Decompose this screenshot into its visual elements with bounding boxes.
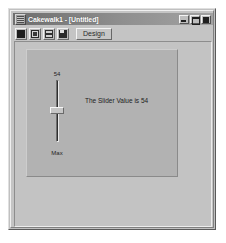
slider-track-area[interactable] xyxy=(52,80,62,142)
close-button[interactable] xyxy=(201,15,211,24)
save-button[interactable] xyxy=(57,28,69,40)
properties-button[interactable] xyxy=(43,28,55,40)
application-window: Cakewalk1 - [Untitled] Design xyxy=(8,8,216,230)
design-button[interactable]: Design xyxy=(76,28,112,40)
toolbar: Design xyxy=(13,26,213,41)
minimize-button[interactable] xyxy=(179,15,189,24)
close-icon xyxy=(205,17,207,23)
record-button[interactable] xyxy=(15,28,27,40)
title-bar[interactable]: Cakewalk1 - [Untitled] xyxy=(13,13,213,25)
gear-icon xyxy=(31,30,39,38)
window-title: Cakewalk1 - [Untitled] xyxy=(28,15,179,24)
window-inner-frame: Cakewalk1 - [Untitled] Design xyxy=(10,10,214,228)
maximize-button[interactable] xyxy=(190,15,200,24)
settings-button[interactable] xyxy=(29,28,41,40)
properties-icon xyxy=(45,30,53,38)
application-icon xyxy=(15,14,26,25)
minimize-icon xyxy=(181,20,186,22)
slider-result-label: The Slider Value is 54 xyxy=(85,97,148,105)
record-icon xyxy=(17,30,25,38)
floppy-disk-icon xyxy=(59,30,67,38)
client-area: 54 Max The Slider Value is 54 xyxy=(14,41,212,227)
slider-min-label: Max xyxy=(43,150,71,157)
title-bar-buttons xyxy=(179,15,211,24)
slider-thumb[interactable] xyxy=(50,107,64,114)
slider-value-label: 54 xyxy=(43,71,71,78)
form-panel: 54 Max The Slider Value is 54 xyxy=(26,49,178,177)
vertical-slider[interactable]: 54 Max xyxy=(43,71,71,157)
maximize-icon xyxy=(192,17,200,25)
